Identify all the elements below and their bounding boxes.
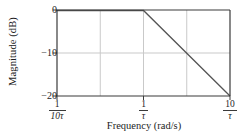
x-tick-label-corner: 1 τ <box>124 100 164 121</box>
y-tick-label-minus10: −10 <box>17 48 57 58</box>
bode-magnitude-chart: Magnitude (dB) 0 −10 −20 1 10τ 1 τ 10 τ … <box>0 0 246 140</box>
x-tick-label-low: 1 10τ <box>37 100 77 121</box>
x-tick-low-numerator: 1 <box>49 100 66 110</box>
x-tick-high-numerator: 10 <box>223 100 237 110</box>
fraction-ten-over-tau: 10 τ <box>223 100 237 121</box>
x-tick-label-high: 10 τ <box>210 100 246 121</box>
x-tick-corner-numerator: 1 <box>139 100 148 110</box>
y-tick-label-0: 0 <box>17 5 57 15</box>
fraction-one-over-tau: 1 τ <box>139 100 148 121</box>
y-axis-title: Magnitude (dB) <box>7 9 18 95</box>
fraction-one-over-ten-tau: 1 10τ <box>49 100 66 121</box>
x-axis-title: Frequency (rad/s) <box>57 120 231 131</box>
